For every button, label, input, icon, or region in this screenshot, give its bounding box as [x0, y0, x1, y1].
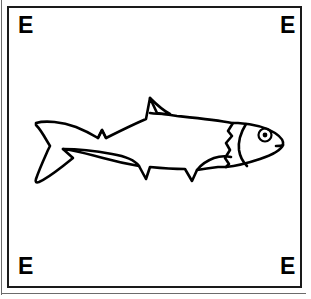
body-outline	[36, 98, 284, 182]
adipose-notch	[98, 130, 106, 138]
fish-line-drawing	[0, 0, 311, 299]
mouth-line	[276, 145, 283, 146]
preopercle-line	[225, 123, 233, 167]
figure-plate: E E E E	[0, 0, 311, 299]
gill-cover	[239, 124, 247, 166]
fish-svg	[0, 0, 311, 299]
pupil	[263, 133, 268, 138]
